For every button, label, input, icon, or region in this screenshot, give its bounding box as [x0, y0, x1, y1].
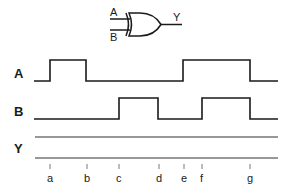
waveform-b — [34, 98, 278, 119]
gate-input-a-label: A — [110, 6, 118, 18]
gate-input-b-label: B — [110, 31, 117, 43]
signal-y-label: Y — [14, 141, 23, 156]
marker-d: d — [156, 172, 162, 184]
marker-f: f — [200, 172, 204, 184]
time-markers: a b c d e f g — [47, 164, 253, 184]
waveform-a — [34, 60, 278, 81]
marker-c: c — [116, 172, 122, 184]
signal-b-label: B — [14, 104, 23, 119]
gate-output-label: Y — [173, 11, 181, 23]
marker-g: g — [247, 172, 253, 184]
marker-e: e — [181, 172, 187, 184]
signal-a-label: A — [14, 66, 24, 81]
marker-a: a — [47, 172, 54, 184]
marker-b: b — [84, 172, 90, 184]
or-gate-body-icon — [129, 13, 161, 36]
xor-gate-symbol: A B Y — [110, 6, 182, 43]
xor-timing-diagram: A B Y A B Y a b c d e f g — [0, 0, 286, 194]
xor-extra-curve-icon — [126, 13, 129, 36]
